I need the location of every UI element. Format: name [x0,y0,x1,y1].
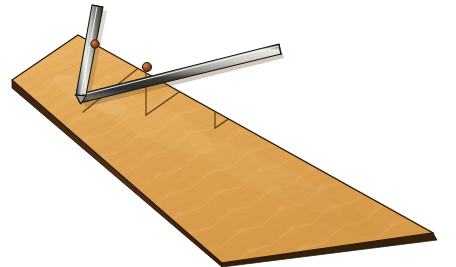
bevel-gauge-illustration: Sliding T-bevel gauge set on a wooden bo… [0,0,456,267]
wooden-board [0,0,456,267]
lower-pivot-wingnut[interactable] [142,62,151,71]
upper-pivot-rivet[interactable] [91,40,99,48]
illustration-canvas: Sliding T-bevel gauge set on a wooden bo… [0,0,456,267]
